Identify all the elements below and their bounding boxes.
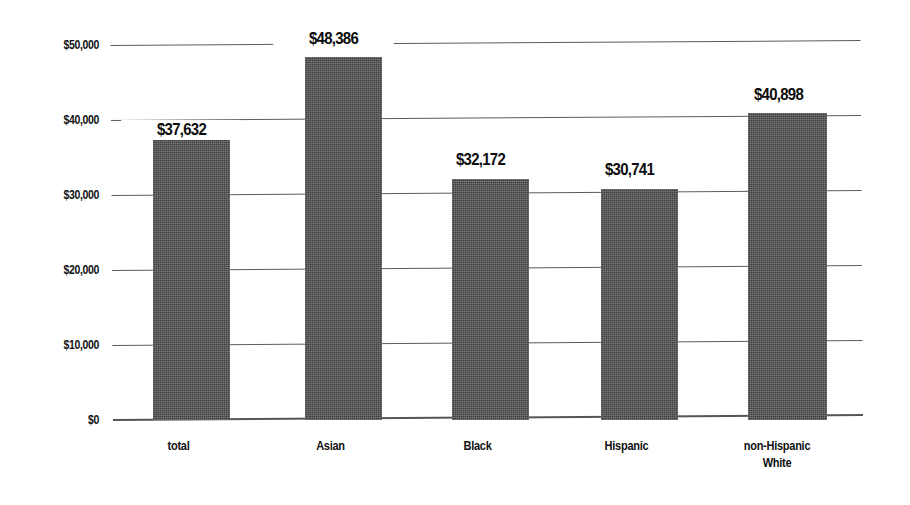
y-axis-tick-10000: $10,000 <box>15 338 99 352</box>
x-axis-label-black: Black <box>420 438 535 455</box>
data-label-black: $32,172 <box>420 150 541 170</box>
x-axis-label-non-hispanic-white: non-Hispanic White <box>718 438 836 472</box>
y-axis-tick-50000: $50,000 <box>15 38 99 52</box>
y-axis-tick-20000: $20,000 <box>15 263 99 277</box>
data-label-total: $37,632 <box>121 120 242 140</box>
data-label-asian: $48,386 <box>273 29 394 49</box>
data-label-hispanic: $30,741 <box>569 160 690 180</box>
bar-hispanic[interactable] <box>601 189 678 420</box>
x-axis-label-total: total <box>121 438 236 455</box>
bar-asian[interactable] <box>305 57 382 420</box>
bar-total[interactable] <box>153 138 230 420</box>
bar-non-hispanic-white[interactable] <box>748 113 827 420</box>
x-axis-label-hispanic: Hispanic <box>569 438 684 455</box>
bar-chart: $50,000 $40,000 $30,000 $20,000 $10,000 … <box>0 0 910 505</box>
data-label-non-hispanic-white: $40,898 <box>718 85 839 105</box>
y-axis-tick-40000: $40,000 <box>15 113 99 127</box>
x-axis-label-asian: Asian <box>273 438 388 455</box>
y-axis-tick-0: $0 <box>15 413 99 427</box>
bar-black[interactable] <box>452 179 529 420</box>
y-axis-tick-30000: $30,000 <box>15 188 99 202</box>
